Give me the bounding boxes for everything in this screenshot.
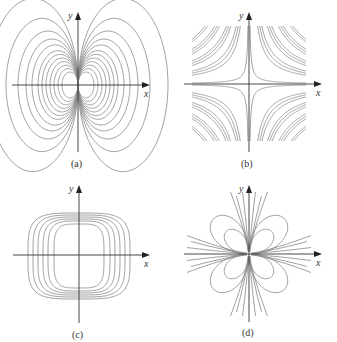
panel-d-y-label: y: [238, 183, 244, 194]
open-curve: [243, 256, 249, 316]
hyperbola-curve: [256, 91, 319, 160]
hyperbola-curve: [179, 5, 217, 48]
hyperbola-curve: [179, 118, 219, 163]
hyperbola-curve: [258, 5, 318, 73]
hyperbola-curve: [179, 121, 217, 164]
hyperbola-curve: [179, 91, 242, 160]
panel-b-x-label: x: [315, 87, 321, 98]
panel-c-caption: (c): [72, 329, 83, 341]
hyperbola-curve: [270, 5, 318, 60]
panel-b-y-label: y: [238, 10, 244, 21]
hyperbola-curve: [281, 5, 319, 48]
panel-c-x-label: x: [143, 258, 149, 269]
panel-a-x-label: x: [143, 88, 149, 99]
hyperbola-curve: [179, 85, 248, 144]
hyperbola-curve: [179, 108, 227, 163]
open-curve: [251, 255, 311, 261]
hyperbola-curve: [179, 8, 242, 77]
hyperbola-curve: [258, 95, 318, 163]
hyperbola-curve: [262, 6, 318, 69]
hyperbola-curve: [179, 99, 235, 162]
panel-a: x y (a): [0, 0, 168, 172]
panel-d-caption: (d): [242, 327, 254, 339]
hyperbola-curve: [250, 24, 319, 83]
open-curve: [250, 256, 256, 316]
panel-b-caption: (b): [241, 158, 253, 170]
hyperbola-curve: [281, 121, 319, 164]
hyperbola-curve: [262, 99, 318, 162]
panel-a-caption: (a): [71, 158, 82, 170]
hyperbola-curve: [270, 108, 318, 163]
hyperbola-curve: [179, 5, 219, 50]
hyperbola-curve: [179, 5, 239, 73]
hyperbola-curve: [179, 5, 227, 60]
open-curve: [187, 255, 247, 261]
panel-b: x y (b): [179, 5, 322, 170]
hyperbola-curve: [250, 85, 319, 144]
dipole-loop-curve: [0, 0, 78, 172]
open-curve: [250, 192, 256, 252]
hyperbola-curve: [179, 95, 239, 163]
hyperbola-curve: [279, 5, 319, 50]
panel-b-y-arrow-icon: [246, 12, 252, 20]
open-curve: [187, 248, 247, 254]
panel-d-x-label: x: [315, 257, 321, 268]
hyperbola-curve: [179, 6, 235, 69]
hyperbola-curve: [179, 24, 248, 83]
dipole-loop-curve: [78, 0, 168, 172]
panel-d-y-arrow-icon: [246, 185, 252, 193]
open-curve: [243, 192, 249, 252]
open-curve: [251, 248, 311, 254]
hyperbola-curve: [256, 8, 319, 77]
panel-c: x y (c): [13, 183, 150, 341]
panel-c-y-arrow-icon: [76, 185, 82, 193]
figure: x y (a) x y (b) x y (c) x y (d): [0, 0, 337, 342]
panel-a-y-arrow-icon: [75, 12, 81, 20]
panel-a-y-label: y: [67, 10, 73, 21]
panel-d: x y (d): [184, 183, 322, 339]
hyperbola-curve: [279, 118, 319, 163]
panel-c-y-label: y: [68, 183, 74, 194]
